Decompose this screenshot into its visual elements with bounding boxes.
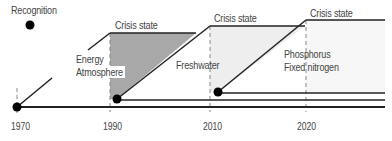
- freshwater-label: Freshwater: [176, 59, 219, 71]
- dot-2010: [214, 88, 223, 97]
- fixed-nitrogen-label: Fixed nitrogen: [284, 61, 339, 73]
- atmosphere-label: Atmosphere: [76, 66, 125, 78]
- recognition-dot: [26, 21, 35, 30]
- energy-rise-upper: [88, 33, 110, 50]
- crisis-label-2: Crisis state: [214, 12, 257, 24]
- dot-1990: [113, 95, 122, 104]
- crisis-label-3: Crisis state: [310, 7, 353, 19]
- recognition-label: Recognition: [11, 4, 57, 16]
- phosphorus-label: Phosphorus: [284, 48, 330, 60]
- energy-rise-lower: [17, 78, 52, 107]
- tick-1970: 1970: [11, 120, 30, 132]
- tick-1990: 1990: [103, 120, 122, 132]
- tick-2010: 2010: [203, 120, 222, 132]
- crisis-label-1: Crisis state: [115, 19, 158, 31]
- tick-2020: 2020: [297, 120, 316, 132]
- energy-label: Energy: [76, 53, 104, 65]
- dot-1970: [13, 103, 22, 112]
